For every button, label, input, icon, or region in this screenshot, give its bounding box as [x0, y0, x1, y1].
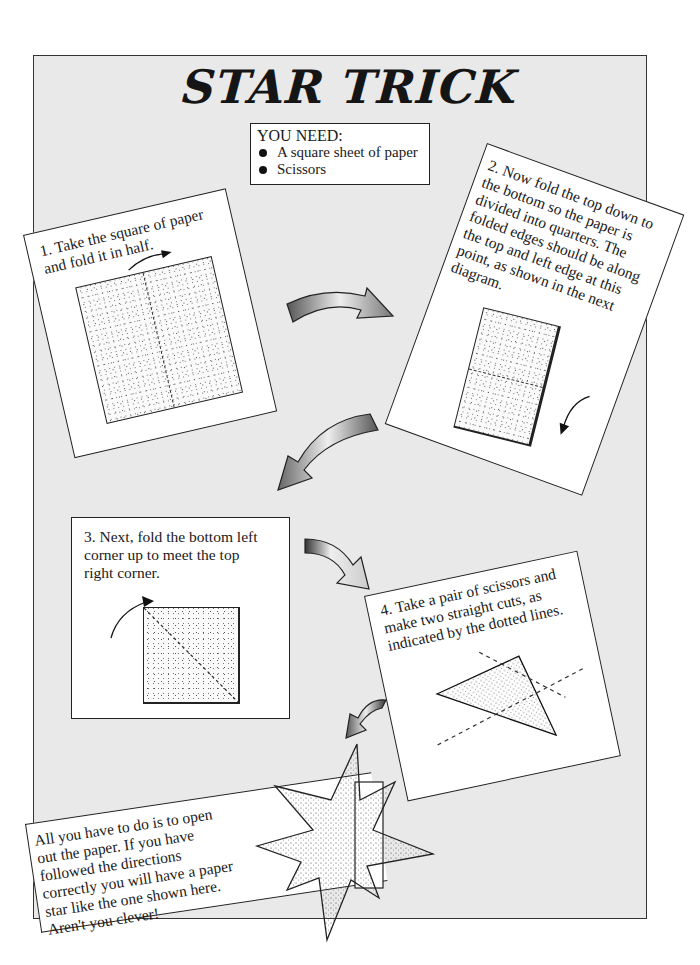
paper-square-illustration: [143, 607, 240, 704]
fold-down-arrow-icon: [552, 387, 597, 444]
star-illustration: [255, 742, 435, 942]
step-3-card: 3. Next, fold the bottom left corner up …: [71, 517, 290, 719]
you-need-item: A square sheet of paper: [257, 144, 423, 161]
fold-line: [143, 273, 175, 408]
curved-arrow-icon: [285, 282, 400, 332]
triangle-cut-illustration: [411, 631, 610, 776]
you-need-list: A square sheet of paper Scissors: [257, 144, 423, 178]
step-3-text-line: right corner.: [84, 564, 257, 582]
step-3-text-line: corner up to meet the top: [84, 546, 257, 564]
you-need-item: Scissors: [257, 161, 423, 178]
paper-square-illustration: [75, 256, 243, 424]
step-3-text-line: 3. Next, fold the bottom left: [84, 528, 257, 546]
page-title: STAR TRICK: [0, 60, 700, 114]
you-need-box: YOU NEED: A square sheet of paper Scisso…: [250, 123, 430, 185]
curved-arrow-icon: [338, 694, 390, 742]
curved-arrow-icon: [303, 537, 373, 593]
curved-arrow-icon: [272, 412, 382, 494]
diagonal-fold-line: [144, 608, 240, 704]
folded-paper-illustration: [453, 307, 561, 447]
you-need-heading: YOU NEED:: [257, 127, 423, 144]
fold-line: [469, 369, 543, 388]
